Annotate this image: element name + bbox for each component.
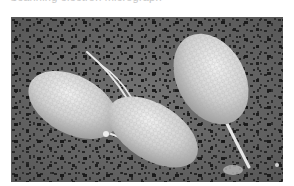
micrograph-svg	[11, 17, 283, 182]
sem-micrograph-image	[11, 17, 283, 182]
image-caption: Scanning electron micrograph	[10, 0, 162, 3]
